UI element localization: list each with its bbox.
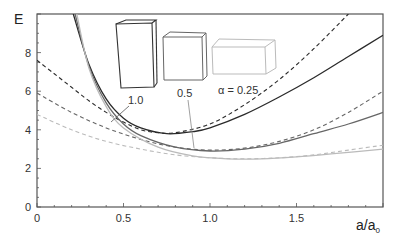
- y-tick-label: 4: [25, 124, 31, 136]
- plot-frame: [37, 14, 383, 207]
- y-tick-label: 0: [25, 201, 31, 213]
- x-tick-label: 1.0: [202, 212, 217, 224]
- annotation-leader-alpha-05: [188, 100, 194, 148]
- x-axis-title: a/a0: [356, 217, 380, 235]
- x-axis-title-main: a/a: [356, 217, 376, 233]
- series-line-3: [37, 91, 383, 150]
- series-line-2: [75, 14, 383, 151]
- energy-chart: 00.51.01.502468 E a/a0 1.0 0.5 α = 0.25: [0, 0, 405, 244]
- series-lines: [37, 14, 383, 159]
- box-icon-alpha-025: [212, 39, 276, 74]
- x-tick-label: 1.5: [289, 212, 304, 224]
- x-axis-title-subscript: 0: [375, 226, 380, 235]
- annotation-alpha-025: α = 0.25: [218, 84, 258, 96]
- box-icon-alpha-1: [116, 20, 157, 88]
- annotation-alpha-1: 1.0: [128, 94, 143, 106]
- y-tick-label: 2: [25, 162, 31, 174]
- x-tick-label: 0: [34, 212, 40, 224]
- series-line-1: [37, 14, 348, 133]
- tick-labels: 00.51.01.502468: [25, 47, 304, 224]
- box-icon-alpha-05: [163, 32, 207, 80]
- y-axis-title: E: [14, 11, 23, 27]
- x-tick-label: 0.5: [116, 212, 131, 224]
- y-tick-label: 8: [25, 47, 31, 59]
- y-tick-label: 6: [25, 85, 31, 97]
- axis-ticks: [37, 14, 383, 207]
- annotation-alpha-05: 0.5: [177, 87, 192, 99]
